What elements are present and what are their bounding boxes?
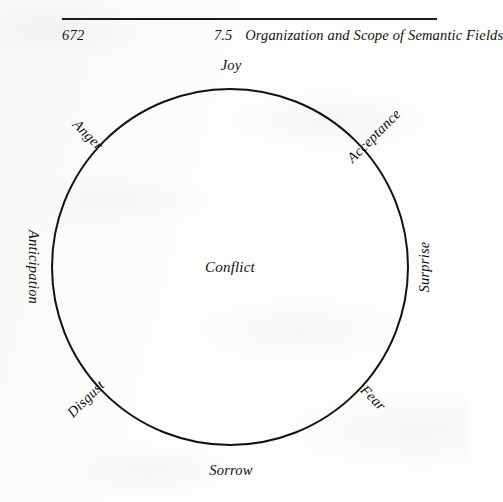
wheel-label-sorrow: Sorrow (209, 462, 252, 479)
wheel-label-joy: Joy (221, 57, 242, 74)
center-label: Conflict (205, 259, 255, 276)
wheel-label-surprise: Surprise (416, 242, 433, 293)
wheel-label-anticipation: Anticipation (25, 230, 42, 304)
